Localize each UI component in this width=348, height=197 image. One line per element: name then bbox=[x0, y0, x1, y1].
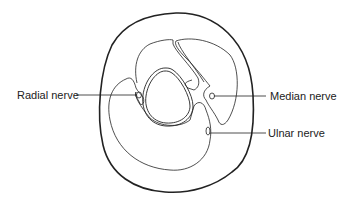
outer-outline bbox=[100, 13, 254, 192]
septum bbox=[178, 42, 204, 82]
bone-inner bbox=[146, 71, 190, 123]
median-nerve-icon bbox=[210, 93, 215, 99]
posterior-compartment bbox=[109, 78, 211, 170]
ulnar-nerve-icon bbox=[206, 127, 210, 135]
radial-nerve-label: Radial nerve bbox=[17, 89, 79, 101]
ulnar-nerve-label: Ulnar nerve bbox=[268, 127, 325, 139]
upper-compartment bbox=[136, 40, 199, 90]
median-nerve-label: Median nerve bbox=[270, 90, 337, 102]
